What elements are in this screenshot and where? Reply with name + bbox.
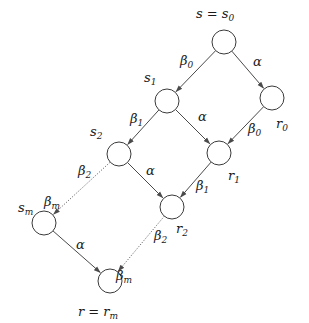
labels: β0αβ1αβ0αβ1β2αβ2s = s0s1r0s2r1r2smr = rm… xyxy=(18,6,288,321)
edge-label-r2-rm: β2 xyxy=(153,228,168,245)
edge-r2-rm xyxy=(118,216,164,271)
node-label-rm: r = rm xyxy=(78,304,118,321)
edge-label-s0-s1: β0 xyxy=(179,53,194,70)
node-label-sm: sm xyxy=(18,200,33,217)
node-s0 xyxy=(212,30,236,54)
node-s1 xyxy=(155,89,179,113)
edge-label-s1-r1: α xyxy=(198,109,207,124)
node-label-r2: r2 xyxy=(176,221,188,238)
node-r0 xyxy=(260,86,284,110)
node-label-s0: s = s0 xyxy=(196,6,235,23)
edge-label-s2-sm: β2 xyxy=(77,163,92,180)
edge-label-s2-r2: α xyxy=(146,163,155,178)
node-label-r1: r1 xyxy=(228,168,240,185)
edge-r0-r1 xyxy=(228,107,264,144)
node-label-r0: r0 xyxy=(276,116,288,133)
extra-label-0: βm xyxy=(43,194,60,211)
extra-label-1: βm xyxy=(115,268,132,285)
nodes xyxy=(32,30,284,293)
node-sm xyxy=(32,211,56,235)
node-s2 xyxy=(107,142,131,166)
edge-label-r0-r1: β0 xyxy=(247,121,262,138)
edge-label-s0-r0: α xyxy=(253,54,262,69)
lattice-diagram: β0αβ1αβ0αβ1β2αβ2s = s0s1r0s2r1r2smr = rm… xyxy=(0,0,309,323)
node-label-s1: s1 xyxy=(144,70,156,87)
node-r1 xyxy=(207,141,231,165)
edge-label-r1-r2: β1 xyxy=(195,178,209,195)
node-label-s2: s2 xyxy=(90,124,103,141)
node-r2 xyxy=(160,195,184,219)
edge-label-s1-s2: β1 xyxy=(129,111,143,128)
edge-label-sm-rm: α xyxy=(76,237,85,252)
